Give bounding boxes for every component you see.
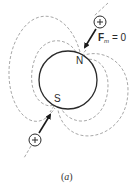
magnetic-force-label: Fm = 0 <box>98 33 126 44</box>
force-relation: = 0 <box>112 32 126 43</box>
north-pole-label: N <box>76 56 83 66</box>
particle-bottom <box>29 115 50 146</box>
velocity-arrow-top <box>85 29 96 47</box>
force-subscript: m <box>104 38 109 44</box>
caption-close-paren: ) <box>69 171 72 182</box>
velocity-arrow-bottom <box>39 115 50 133</box>
diagram-canvas <box>0 0 139 194</box>
dipole-diagram: N S Fm = 0 (a) <box>0 0 139 194</box>
planet-body <box>39 51 97 109</box>
south-pole-label: S <box>54 94 61 104</box>
figure-caption: (a) <box>61 172 73 182</box>
